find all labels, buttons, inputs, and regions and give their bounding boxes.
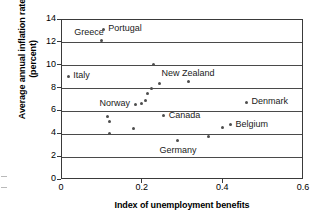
y-axis-tick-mark — [57, 156, 61, 157]
data-point — [108, 120, 111, 123]
data-point-denmark — [245, 101, 248, 104]
y-axis-tick-label: 10 — [36, 59, 56, 69]
data-point — [158, 82, 161, 85]
y-axis-tick-label: 12 — [36, 36, 56, 46]
y-axis-tick-label: 2 — [36, 150, 56, 160]
data-point — [207, 135, 210, 138]
point-label-germany: Germany — [159, 145, 196, 155]
data-point — [146, 92, 149, 95]
point-label-greece: Greece — [74, 27, 104, 37]
page-edge-mark — [1, 187, 7, 188]
gridline-y — [62, 42, 302, 43]
y-axis-tick-mark — [57, 41, 61, 42]
x-axis-tick-mark — [222, 179, 223, 183]
x-axis-tick-label: 0.2 — [127, 182, 157, 192]
gridline-y — [62, 134, 302, 135]
x-axis-tick-label: 0.6 — [288, 182, 318, 192]
page-edge-mark — [1, 176, 7, 177]
data-point — [108, 132, 111, 135]
point-label-italy: Italy — [73, 70, 90, 80]
gridline-y — [62, 157, 302, 158]
x-axis-tick-mark — [141, 179, 142, 183]
data-point — [140, 102, 143, 105]
gridline-y — [62, 65, 302, 66]
y-axis-tick-mark — [57, 133, 61, 134]
y-axis-tick-label: 14 — [36, 13, 56, 23]
point-label-canada: Canada — [169, 110, 201, 120]
data-point — [106, 115, 109, 118]
point-label-new-zealand: New Zealand — [162, 68, 215, 78]
gridline-y — [62, 88, 302, 89]
y-axis-tick-label: 4 — [36, 127, 56, 137]
x-axis-title: Index of unemployment benefits — [61, 200, 303, 210]
y-axis-tick-mark — [57, 110, 61, 111]
data-point-italy — [67, 75, 70, 78]
y-axis-tick-label: 8 — [36, 82, 56, 92]
y-axis-tick-mark — [57, 19, 61, 20]
y-axis-tick-mark — [57, 64, 61, 65]
scatter-chart-figure: Average annual inflation rate (percent) … — [0, 0, 323, 220]
point-label-denmark: Denmark — [252, 96, 289, 106]
y-axis-tick-mark — [57, 87, 61, 88]
point-label-belgium: Belgium — [235, 119, 268, 129]
y-axis-tick-mark — [57, 179, 61, 180]
data-point-norway — [134, 103, 137, 106]
x-axis-tick-label: 0 — [46, 182, 76, 192]
data-point — [150, 87, 153, 90]
point-label-portugal: Portugal — [108, 23, 142, 33]
point-label-norway: Norway — [100, 98, 131, 108]
y-axis-tick-label: 6 — [36, 104, 56, 114]
x-axis-tick-label: 0.4 — [207, 182, 237, 192]
data-point — [221, 126, 224, 129]
